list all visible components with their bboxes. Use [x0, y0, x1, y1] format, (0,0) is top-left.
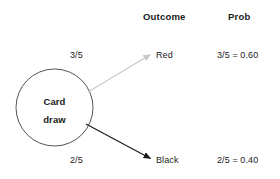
branch-probability-black: 2/5 [70, 155, 83, 166]
branch-probability-red: 3/5 [70, 50, 83, 61]
branch-arrow-red [88, 55, 151, 93]
outcome-label-red: Red [156, 50, 173, 61]
root-node-label: Card draw [16, 96, 93, 125]
root-node-label-line2: draw [16, 114, 93, 125]
probability-tree-diagram: Outcome Prob Card draw 3/5 Red 3/5 = 0.6… [0, 0, 280, 179]
probability-value-red: 3/5 = 0.60 [217, 50, 258, 61]
outcome-label-black: Black [156, 155, 179, 166]
tree-branches-svg [0, 0, 280, 179]
column-header-outcome: Outcome [143, 11, 186, 22]
column-header-prob: Prob [228, 11, 250, 22]
branch-arrow-black [86, 124, 151, 159]
probability-value-black: 2/5 = 0.40 [217, 155, 258, 166]
root-node-label-line1: Card [16, 96, 93, 107]
